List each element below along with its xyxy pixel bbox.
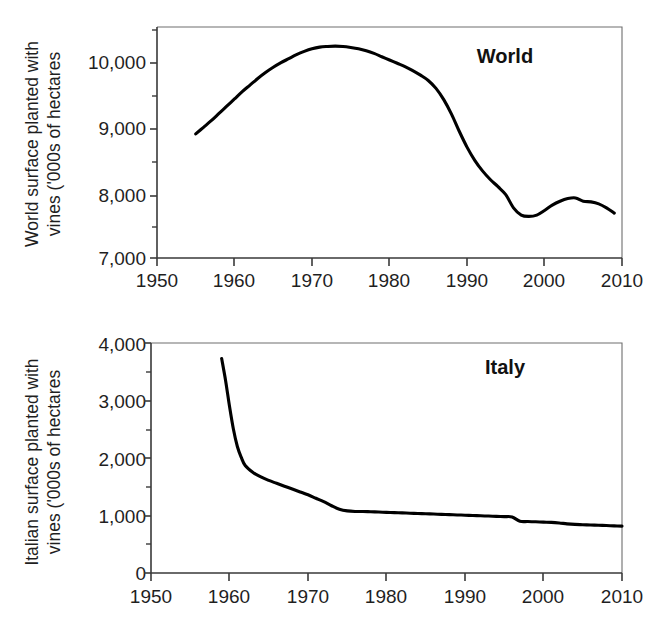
world-ytick-7000: 7,000	[98, 248, 146, 269]
italy-x-major-ticks	[151, 573, 622, 581]
world-xtick-1970: 1970	[291, 270, 333, 291]
world-y-axis-title-line2: vines ('000s of hectares	[44, 52, 64, 237]
italy-y-axis-title-line2: vines ('000s of hectares	[44, 370, 64, 555]
italy-xtick-2010: 2010	[601, 586, 643, 607]
world-series-line	[196, 46, 615, 216]
italy-chart-svg: Italian surface planted with vines ('000…	[0, 312, 667, 635]
italy-xtick-2000: 2000	[522, 586, 564, 607]
italy-ytick-4000: 4,000	[98, 334, 146, 355]
italy-plot-frame-light	[151, 343, 622, 573]
world-xtick-2000: 2000	[523, 270, 565, 291]
vineyard-surface-figure: World surface planted with vines ('000s …	[0, 0, 667, 635]
world-ytick-9000: 9,000	[98, 118, 146, 139]
world-xtick-1950: 1950	[136, 270, 178, 291]
world-xtick-1960: 1960	[213, 270, 255, 291]
italy-y-axis-title: Italian surface planted with vines ('000…	[22, 358, 64, 565]
italy-panel-label: Italy	[485, 356, 526, 378]
world-y-axis-title: World surface planted with vines ('000s …	[22, 41, 64, 247]
world-xtick-2010: 2010	[601, 270, 643, 291]
world-ytick-10000: 10,000	[88, 52, 146, 73]
world-x-tick-labels: 1950 1960 1970 1980 1990 2000 2010	[136, 270, 643, 291]
italy-xtick-1980: 1980	[365, 586, 407, 607]
italy-y-tick-labels: 0 1,000 2,000 3,000 4,000	[98, 334, 146, 584]
italy-xtick-1990: 1990	[444, 586, 486, 607]
chart-panel-world: World surface planted with vines ('000s …	[0, 0, 667, 312]
world-chart-svg: World surface planted with vines ('000s …	[0, 0, 667, 312]
world-y-axis-title-line1: World surface planted with	[22, 41, 42, 247]
italy-xtick-1950: 1950	[130, 586, 172, 607]
world-ytick-8000: 8,000	[98, 185, 146, 206]
world-y-major-ticks	[150, 63, 157, 258]
world-panel-label: World	[477, 45, 533, 67]
italy-xtick-1970: 1970	[287, 586, 329, 607]
italy-x-tick-labels: 1950 1960 1970 1980 1990 2000 2010	[130, 586, 643, 607]
italy-ytick-2000: 2,000	[98, 449, 146, 470]
italy-plot-axes	[151, 343, 622, 573]
italy-series-line	[222, 359, 622, 527]
world-x-major-ticks	[157, 258, 622, 266]
world-xtick-1990: 1990	[446, 270, 488, 291]
world-y-tick-labels: 7,000 8,000 9,000 10,000	[88, 52, 146, 269]
italy-y-axis-title-line1: Italian surface planted with	[22, 358, 42, 565]
italy-xtick-1960: 1960	[208, 586, 250, 607]
italy-y-major-ticks	[144, 343, 151, 573]
italy-ytick-3000: 3,000	[98, 391, 146, 412]
chart-panel-italy: Italian surface planted with vines ('000…	[0, 312, 667, 635]
world-xtick-1980: 1980	[368, 270, 410, 291]
italy-ytick-1000: 1,000	[98, 506, 146, 527]
